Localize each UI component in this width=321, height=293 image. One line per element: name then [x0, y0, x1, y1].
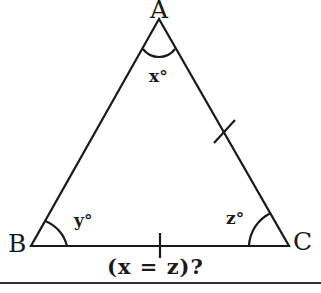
angle-arc-c: [249, 213, 271, 246]
angle-label-z: z°: [226, 210, 244, 227]
triangle-figure: [0, 0, 321, 293]
vertex-label-b: B: [8, 231, 26, 256]
tick-mark-ac: [214, 120, 235, 143]
angle-arc-a: [143, 49, 175, 57]
vertex-label-a: A: [150, 0, 168, 22]
triangle-abc: [31, 19, 289, 246]
angle-arc-b: [45, 221, 67, 246]
question-text: (x = z)?: [107, 256, 204, 277]
angle-label-y: y°: [74, 212, 92, 229]
angle-label-x: x°: [149, 68, 168, 85]
vertex-label-c: C: [293, 229, 312, 254]
bottom-divider: [0, 282, 321, 284]
